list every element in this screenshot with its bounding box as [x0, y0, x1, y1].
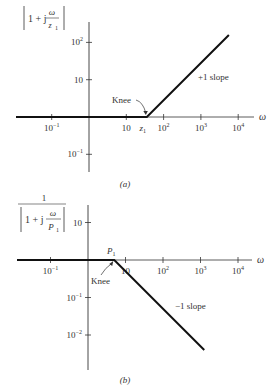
- ylabel-a: 1 + j ω z 1: [24, 6, 64, 31]
- y-tick-label: 10: [74, 75, 84, 85]
- ylabel-num: ω: [50, 208, 56, 218]
- y-tick-label: 10−1: [68, 148, 83, 159]
- knee-arrowhead: [109, 261, 113, 266]
- x-axis-symbol: ω: [257, 254, 264, 265]
- figure-b: 1 1 + j ω P 1 ω10−1101021031041010−110−2…: [17, 193, 264, 385]
- y-tick-label: 10: [73, 218, 83, 228]
- x-tick-label: 10: [122, 123, 132, 133]
- x-tick-label: 102: [158, 122, 170, 133]
- x-tick-label: 104: [232, 265, 244, 276]
- knee-arrowhead: [143, 111, 148, 115]
- x-tick-label: 103: [195, 122, 207, 133]
- ylabel-num: ω: [49, 7, 55, 17]
- y-tick-label: 10−1: [67, 292, 82, 303]
- ylabel-den: P: [47, 222, 54, 232]
- y-tick-label: 102: [71, 36, 83, 47]
- ylabel-top: 1: [42, 193, 47, 203]
- x-tick-label: 10−1: [43, 265, 58, 276]
- figure-caption: (a): [120, 179, 131, 189]
- x-tick-label: 102: [157, 265, 169, 276]
- ylabel-den: z: [47, 21, 52, 30]
- bode-diagram: 1 + j ω z 1 ω10−1101021031041021010−1z1K…: [0, 0, 275, 391]
- ylabel-den-sub: 1: [55, 25, 58, 31]
- ylabel-prefix: 1 + j: [28, 13, 46, 24]
- ylabel-den-sub: 1: [56, 227, 59, 233]
- break-frequency-label: P1: [106, 246, 116, 257]
- x-axis-symbol: ω: [259, 111, 266, 122]
- x-tick-label: 10−1: [44, 122, 59, 133]
- knee-label: Knee: [91, 276, 110, 286]
- figure-a: 1 + j ω z 1 ω10−1101021031041021010−1z1K…: [16, 6, 266, 189]
- x-tick-label: 104: [232, 122, 244, 133]
- figure-caption: (b): [120, 375, 131, 385]
- y-tick-label: 10−2: [67, 329, 82, 340]
- slope-label: −1 slope: [175, 301, 206, 311]
- break-frequency-label: z1: [139, 123, 147, 134]
- ylabel-prefix: 1 + j: [25, 214, 43, 225]
- x-tick-label: 103: [195, 265, 207, 276]
- knee-label: Knee: [112, 95, 131, 105]
- slope-label: +1 slope: [198, 72, 229, 82]
- ylabel-b: 1 1 + j ω P 1: [18, 193, 66, 233]
